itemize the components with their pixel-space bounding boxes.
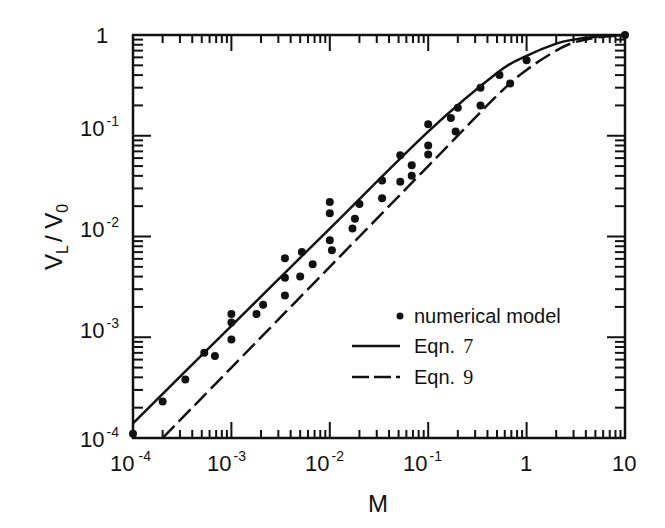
data-point (351, 215, 359, 223)
y-tick-label: 10-1 (80, 113, 119, 141)
data-point (424, 142, 432, 150)
data-point (447, 114, 455, 122)
y-axis-title: VL/ V0 (40, 204, 71, 270)
x-axis-title: M (368, 490, 388, 517)
x-tick-label: 1 (520, 451, 532, 476)
data-point (396, 151, 404, 159)
eqn9-dashed-curve (163, 35, 625, 438)
data-point (506, 80, 514, 88)
x-tick-label: 10-2 (305, 448, 344, 476)
data-point (281, 274, 289, 282)
data-point (159, 398, 167, 406)
data-point (326, 209, 334, 217)
data-point (452, 128, 460, 136)
data-point (378, 176, 386, 184)
data-point (621, 31, 629, 39)
data-point (211, 352, 219, 360)
data-point (523, 56, 531, 64)
y-tick-label: 10-4 (80, 424, 119, 452)
x-tick-label: 10-1 (403, 448, 442, 476)
data-point (408, 172, 416, 180)
data-point (281, 254, 289, 262)
x-tick-label: 10-4 (110, 448, 151, 476)
data-point (298, 248, 306, 256)
data-point (281, 291, 289, 299)
data-point (200, 349, 208, 357)
data-point (181, 376, 189, 384)
data-point (129, 430, 137, 438)
data-point (355, 200, 363, 208)
data-point (309, 260, 317, 268)
x-tick-label: 10-3 (207, 448, 246, 476)
y-tick-label: 10-2 (80, 214, 119, 242)
legend-label-eqn7: Eqn.7 (414, 335, 473, 357)
data-point (424, 120, 432, 128)
legend-dot-marker (397, 313, 404, 320)
legend-label-eqn9: Eqn.9 (414, 366, 473, 388)
data-point (396, 178, 404, 186)
y-tick-labels: 1 10-1 10-2 10-3 10-4 (80, 23, 119, 452)
y-tick-label: 1 (96, 23, 108, 48)
log-log-chart: 10-4 10-3 10-2 10-1 1 10 1 10-1 10-2 10-… (0, 0, 665, 528)
data-point (328, 246, 336, 254)
data-point (454, 104, 462, 112)
data-point (476, 101, 484, 109)
data-point (408, 161, 416, 169)
data-point (253, 310, 261, 318)
legend: numerical model Eqn.7 Eqn.9 (352, 305, 561, 388)
data-point (227, 310, 235, 318)
eqn7-solid-curve (133, 35, 625, 423)
x-tick-labels: 10-4 10-3 10-2 10-1 1 10 (110, 448, 636, 476)
data-point (259, 301, 267, 309)
data-point (227, 335, 235, 343)
data-point (326, 198, 334, 206)
data-point (348, 225, 356, 233)
data-point (495, 71, 503, 79)
data-point (424, 151, 432, 159)
data-point (326, 236, 334, 244)
legend-label-numerical-model: numerical model (414, 305, 561, 327)
data-point (378, 194, 386, 202)
data-point (476, 84, 484, 92)
y-tick-label: 10-3 (80, 315, 119, 343)
data-point (296, 273, 304, 281)
x-tick-label: 10 (612, 451, 636, 476)
data-point (227, 319, 235, 327)
